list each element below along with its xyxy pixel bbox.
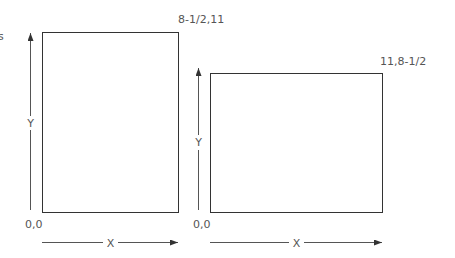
landscape-rectangle — [211, 74, 383, 213]
landscape-extent-label: 11,8-1/2 — [380, 55, 426, 68]
landscape-x-label: X — [293, 237, 301, 250]
cutoff-text-fragment: s — [0, 30, 4, 43]
landscape-diagram: Y X 0,0 11,8-1/2 — [193, 55, 426, 250]
paper-orientation-diagram: s Y X 0,0 8-1/2,11 Y X 0,0 11,8-1/2 — [0, 0, 455, 258]
portrait-origin-label: 0,0 — [25, 218, 43, 231]
landscape-origin-label: 0,0 — [193, 218, 211, 231]
portrait-rectangle — [43, 33, 179, 213]
landscape-y-label: Y — [194, 136, 202, 149]
portrait-y-label: Y — [26, 117, 34, 130]
portrait-extent-label: 8-1/2,11 — [178, 13, 224, 26]
portrait-x-label: X — [107, 237, 115, 250]
portrait-diagram: Y X 0,0 8-1/2,11 — [25, 13, 224, 250]
